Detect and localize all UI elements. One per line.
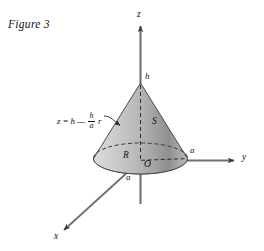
equation-fraction-numerator: h — [89, 112, 95, 121]
equation-fraction: h a — [88, 112, 95, 130]
label-apex-height-h: h — [145, 72, 150, 81]
label-radius-a-y: a — [190, 146, 195, 155]
label-origin-o: O — [144, 160, 151, 170]
label-base-disk-r: R — [123, 151, 129, 161]
equation-lhs: z — [57, 116, 61, 126]
axis-label-z: z — [137, 10, 141, 20]
axis-label-x: x — [54, 232, 58, 242]
label-surface-s: S — [152, 117, 157, 127]
equation-h-term: h — [71, 116, 76, 126]
equation-equals: = — [63, 116, 69, 126]
cone-equation: z = h — h a r — [57, 112, 102, 130]
label-radius-a-x: a — [126, 173, 131, 182]
axis-label-y: y — [242, 153, 246, 163]
cone-diagram — [0, 0, 264, 251]
equation-fraction-denominator: a — [89, 122, 95, 131]
equation-r-term: r — [98, 116, 102, 126]
equation-minus: — — [77, 116, 85, 126]
